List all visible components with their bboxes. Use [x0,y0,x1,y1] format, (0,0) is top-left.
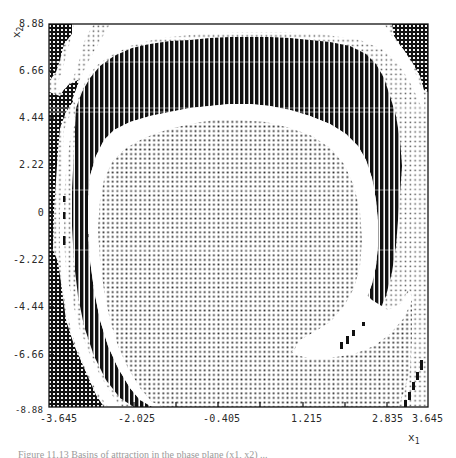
x-axis-title-subscript: 1 [415,437,420,446]
y-tick-label: -2.22 [4,254,44,265]
x-axis-title: x1 [408,431,419,446]
x-tick-label: -0.405 [203,413,240,424]
y-axis-title: x2 [10,27,25,38]
y-tick-label: -6.66 [4,349,44,360]
figure-caption: Figure 11.13 Basins of attraction in the… [18,449,448,458]
y-tick-label: -8.88 [15,405,43,415]
y-tick-label: 2.22 [4,159,44,170]
y-tick-label: 0 [4,207,44,218]
x-tick-label: 1.215 [291,413,322,424]
x-axis-title-text: x [408,431,415,444]
phase-plane-plot [0,0,456,458]
x-tick-label: -3.645 [40,413,77,424]
y-axis-title-subscript: 2 [16,27,25,32]
x-tick-label: 2.835 [372,413,403,424]
y-tick-label: -4.44 [4,301,44,312]
y-tick-label: 6.66 [4,65,44,76]
y-tick-label: 4.44 [4,112,44,123]
y-axis-title-text: x [10,31,23,38]
x-tick-label: 3.645 [412,413,443,424]
x-tick-label: -2.025 [118,413,155,424]
figure: 8.88 6.66 4.44 2.22 0 -2.22 -4.44 -6.66 … [0,0,456,458]
